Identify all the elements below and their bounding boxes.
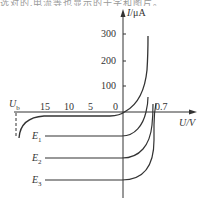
y-axis-label: I/μA <box>127 8 146 18</box>
curve-label-e1: E1 <box>32 131 42 145</box>
curve-label-e2: E2 <box>32 153 42 167</box>
y-tick-200: 200 <box>101 56 116 66</box>
x-tick-10: 10 <box>64 102 74 112</box>
y-tick-100: 100 <box>101 81 116 91</box>
y-axis-arrow-icon <box>121 9 126 17</box>
y-tick-300: 300 <box>101 29 116 39</box>
curve-label-e3: E3 <box>32 175 42 189</box>
x-tick-5: 5 <box>88 102 93 112</box>
x-tick-15: 15 <box>40 102 50 112</box>
x-axis-arrow-icon <box>189 110 197 115</box>
x-axis-label: U/V <box>179 118 195 128</box>
x-tick-0-7: 0.7 <box>155 102 168 112</box>
dark-curve <box>19 36 148 138</box>
x-tick-0: 0 <box>113 102 118 112</box>
breakdown-voltage-label: Ub <box>9 99 20 113</box>
curve-e3 <box>45 103 156 180</box>
